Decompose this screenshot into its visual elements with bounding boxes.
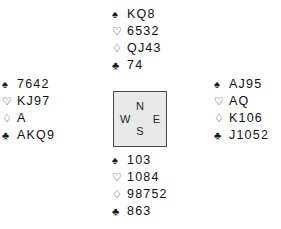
spade-suit-icon: ♠ <box>112 152 127 169</box>
spade-suit-icon: ♠ <box>2 76 17 93</box>
hand-east-hearts: AQ <box>229 93 249 110</box>
heart-suit-icon: ♡ <box>214 93 229 110</box>
hand-east-spades: AJ95 <box>229 76 262 93</box>
hand-south-spades-row: ♠ 103 <box>112 152 168 169</box>
hand-north-hearts: 6532 <box>127 23 160 40</box>
hand-north-spades-row: ♠ KQ8 <box>112 6 162 23</box>
hand-east-diamonds-row: ♢ K106 <box>214 110 269 127</box>
hand-west-clubs: AKQ9 <box>17 127 55 144</box>
hand-west-hearts: KJ97 <box>17 93 50 110</box>
hand-south-clubs-row: ♣ 863 <box>112 203 168 220</box>
hand-west-hearts-row: ♡ KJ97 <box>2 93 55 110</box>
compass-west-label: W <box>120 114 130 125</box>
hand-east-clubs-row: ♣ J1052 <box>214 127 269 144</box>
hand-east: ♠ AJ95 ♡ AQ ♢ K106 ♣ J1052 <box>214 76 269 144</box>
compass-south-label: S <box>114 126 166 137</box>
hand-west-spades-row: ♠ 7642 <box>2 76 55 93</box>
hand-north-spades: KQ8 <box>127 6 156 23</box>
diamond-suit-icon: ♢ <box>112 40 127 57</box>
diamond-suit-icon: ♢ <box>112 186 127 203</box>
hand-north-diamonds: QJ43 <box>127 40 162 57</box>
diamond-suit-icon: ♢ <box>214 110 229 127</box>
hand-south-clubs: 863 <box>127 203 151 220</box>
club-suit-icon: ♣ <box>2 127 17 144</box>
hand-west-spades: 7642 <box>17 76 50 93</box>
hand-north-hearts-row: ♡ 6532 <box>112 23 162 40</box>
hand-south-spades: 103 <box>127 152 151 169</box>
compass-north-label: N <box>114 101 166 112</box>
hand-west: ♠ 7642 ♡ KJ97 ♢ A ♣ AKQ9 <box>2 76 55 144</box>
hand-south-hearts-row: ♡ 1084 <box>112 169 168 186</box>
hand-south-diamonds: 98752 <box>127 186 168 203</box>
bridge-hand-diagram: ♠ KQ8 ♡ 6532 ♢ QJ43 ♣ 74 ♠ 7642 ♡ KJ97 ♢… <box>0 0 281 229</box>
hand-east-clubs: J1052 <box>229 127 269 144</box>
hand-south-hearts: 1084 <box>127 169 160 186</box>
heart-suit-icon: ♡ <box>2 93 17 110</box>
hand-north-clubs: 74 <box>127 57 143 74</box>
hand-west-clubs-row: ♣ AKQ9 <box>2 127 55 144</box>
hand-north: ♠ KQ8 ♡ 6532 ♢ QJ43 ♣ 74 <box>112 6 162 74</box>
hand-east-hearts-row: ♡ AQ <box>214 93 269 110</box>
hand-west-diamonds: A <box>17 110 27 127</box>
heart-suit-icon: ♡ <box>112 169 127 186</box>
hand-north-diamonds-row: ♢ QJ43 <box>112 40 162 57</box>
compass-box: N W E S <box>113 91 167 147</box>
spade-suit-icon: ♠ <box>112 6 127 23</box>
club-suit-icon: ♣ <box>112 57 127 74</box>
spade-suit-icon: ♠ <box>214 76 229 93</box>
heart-suit-icon: ♡ <box>112 23 127 40</box>
club-suit-icon: ♣ <box>112 203 127 220</box>
hand-north-clubs-row: ♣ 74 <box>112 57 162 74</box>
hand-west-diamonds-row: ♢ A <box>2 110 55 127</box>
hand-south: ♠ 103 ♡ 1084 ♢ 98752 ♣ 863 <box>112 152 168 220</box>
club-suit-icon: ♣ <box>214 127 229 144</box>
compass-east-label: E <box>153 114 160 125</box>
hand-east-diamonds: K106 <box>229 110 263 127</box>
hand-east-spades-row: ♠ AJ95 <box>214 76 269 93</box>
diamond-suit-icon: ♢ <box>2 110 17 127</box>
hand-south-diamonds-row: ♢ 98752 <box>112 186 168 203</box>
